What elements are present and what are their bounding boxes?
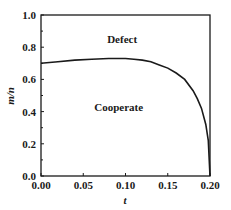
x-axis-label: t	[123, 194, 127, 206]
y-tick-label: 0.8	[22, 41, 36, 53]
chart: 0.000.050.100.150.20 0.00.20.40.60.81.0 …	[0, 0, 231, 210]
y-tick-labels: 0.00.20.40.60.81.0	[22, 9, 36, 182]
y-tick-label: 0.0	[22, 170, 36, 182]
y-tick-label: 0.6	[22, 73, 36, 85]
y-axis-label: m/n	[4, 87, 16, 105]
y-tick-label: 1.0	[22, 9, 36, 21]
x-tick-label: 0.10	[116, 179, 136, 191]
x-tick-label: 0.05	[74, 179, 94, 191]
boundary-curve	[41, 59, 210, 177]
y-tick-label: 0.4	[22, 106, 36, 118]
y-tick-label: 0.2	[22, 138, 36, 150]
defect-region-label: Defect	[107, 33, 137, 45]
x-tick-labels: 0.000.050.100.150.20	[31, 179, 220, 191]
x-tick-label: 0.20	[200, 179, 220, 191]
cooperate-region-label: Cooperate	[94, 101, 143, 113]
x-tick-label: 0.15	[158, 179, 178, 191]
